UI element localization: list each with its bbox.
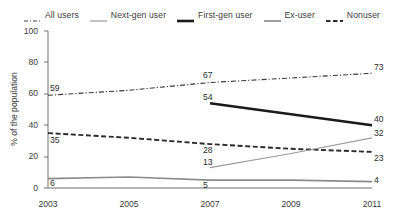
data-label-next-gen-2011: 32 xyxy=(374,129,384,138)
data-label-all-users-2003: 59 xyxy=(50,84,60,93)
series-line-first-gen-user xyxy=(210,103,372,125)
data-label-all-users-2007: 67 xyxy=(203,71,213,80)
data-label-nonuser-2011: 23 xyxy=(374,154,384,163)
series-line-ex-user xyxy=(48,177,372,182)
plot-area: 100 80 60 40 20 0 % of the population 20… xyxy=(0,0,404,219)
data-label-ex-user-2003: 6 xyxy=(50,179,55,188)
plot-svg xyxy=(0,0,404,219)
data-label-first-gen-2007: 54 xyxy=(203,93,213,102)
data-label-nonuser-2007: 28 xyxy=(203,146,213,155)
data-label-nonuser-2003: 35 xyxy=(50,136,60,145)
data-label-ex-user-2011: 4 xyxy=(374,176,379,185)
chart-container: All users Next-gen user First-gen user E… xyxy=(0,0,404,219)
series-line-next-gen-user xyxy=(210,138,372,168)
data-label-all-users-2011: 73 xyxy=(374,63,384,72)
data-label-ex-user-2007: 5 xyxy=(203,181,208,190)
data-label-first-gen-2011: 40 xyxy=(374,115,384,124)
data-label-next-gen-2007: 13 xyxy=(203,158,213,167)
